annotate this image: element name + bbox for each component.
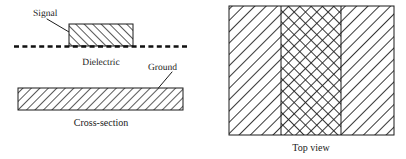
signal-leader-line (47, 19, 69, 32)
ground-label: Ground (148, 63, 177, 73)
dielectric-label: Dielectric (82, 58, 119, 68)
microstrip-figure: Signal Dielectric Ground Cross-section T… (0, 0, 406, 159)
cross-section-caption: Cross-section (74, 117, 128, 128)
top-view-band-ground-right (341, 6, 394, 135)
top-view-band-signal-center (281, 6, 341, 135)
ground-plane (18, 88, 183, 110)
figure-root: Signal Dielectric Ground Cross-section T… (0, 0, 406, 159)
top-view-diagram: Top view (229, 6, 394, 153)
signal-label: Signal (33, 9, 58, 19)
top-view-caption: Top view (292, 142, 330, 153)
top-view-band-ground-left (229, 6, 281, 135)
signal-conductor (69, 24, 133, 46)
cross-section-diagram: Signal Dielectric Ground Cross-section (14, 9, 190, 128)
